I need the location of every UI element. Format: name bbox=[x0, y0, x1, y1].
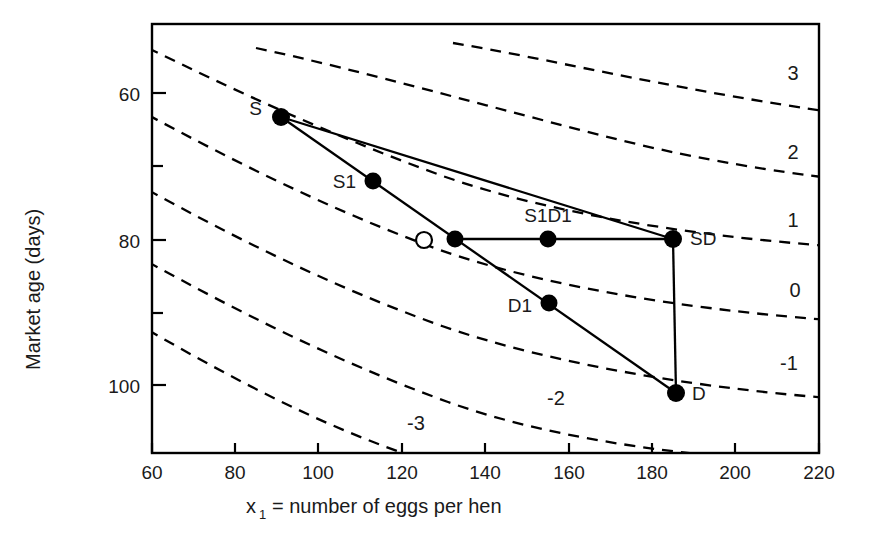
data-point-label-d: D bbox=[692, 383, 706, 404]
data-point-label-sd: SD bbox=[690, 228, 716, 249]
x-tick-label-160: 160 bbox=[553, 462, 585, 483]
x-axis-title-subscript: 1 bbox=[259, 507, 266, 522]
x-tick-label-100: 100 bbox=[302, 462, 334, 483]
data-point-d[interactable] bbox=[667, 384, 685, 402]
y-tick-label-60: 60 bbox=[119, 84, 140, 105]
data-point-o[interactable] bbox=[416, 232, 432, 248]
contour-label-minus-2: -2 bbox=[547, 387, 565, 409]
x-tick-label-60: 60 bbox=[141, 462, 162, 483]
data-point-s1[interactable] bbox=[365, 173, 382, 190]
y-axis-title: Market age (days) bbox=[22, 209, 44, 370]
x-axis-title: x 1 = number of eggs per hen bbox=[246, 495, 502, 522]
data-point-label-s1: S1 bbox=[333, 171, 356, 192]
x-tick-label-200: 200 bbox=[719, 462, 751, 483]
y-tick-label-80: 80 bbox=[119, 231, 140, 252]
x-tick-label-80: 80 bbox=[224, 462, 245, 483]
contour-label-3: 3 bbox=[787, 62, 798, 84]
chart-figure: 60 80 100 120 140 160 180 200 220 60 80 … bbox=[0, 0, 888, 543]
data-point-s1d1[interactable] bbox=[540, 231, 557, 248]
x-tick-label-220: 220 bbox=[803, 462, 835, 483]
chart-svg: 60 80 100 120 140 160 180 200 220 60 80 … bbox=[0, 0, 888, 543]
contour-label-0: 0 bbox=[789, 279, 800, 301]
data-point-inner[interactable] bbox=[447, 231, 464, 248]
y-tick-label-100: 100 bbox=[108, 376, 140, 397]
data-point-label-s1d1: S1D1 bbox=[524, 205, 572, 226]
data-point-d1[interactable] bbox=[541, 295, 558, 312]
contour-label-2: 2 bbox=[787, 141, 798, 163]
x-axis-title-var: x bbox=[246, 495, 256, 517]
contour-label-minus-3: -3 bbox=[407, 412, 425, 434]
data-point-label-s: S bbox=[249, 98, 262, 119]
data-point-s[interactable] bbox=[272, 108, 290, 126]
data-point-label-d1: D1 bbox=[508, 295, 532, 316]
data-point-sd[interactable] bbox=[664, 230, 682, 248]
contour-label-1: 1 bbox=[787, 209, 798, 231]
x-tick-label-140: 140 bbox=[469, 462, 501, 483]
x-axis-title-rest: = number of eggs per hen bbox=[272, 495, 502, 517]
x-tick-label-120: 120 bbox=[386, 462, 418, 483]
contour-label-minus-1: -1 bbox=[780, 352, 798, 374]
x-tick-label-180: 180 bbox=[636, 462, 668, 483]
